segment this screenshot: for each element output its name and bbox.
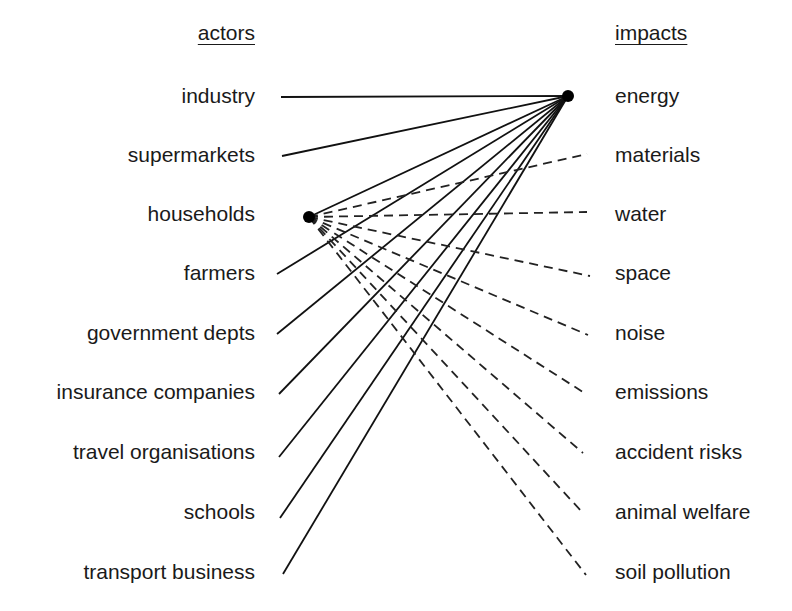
- connection-lines: [0, 0, 792, 611]
- dashed-link-soil-pollution: [309, 217, 586, 575]
- solid-link-travel-organisations: [279, 96, 568, 457]
- solid-link-insurance-companies: [279, 96, 568, 394]
- dashed-link-accident-risks: [309, 217, 583, 453]
- solid-link-schools: [280, 96, 568, 518]
- dashed-link-water: [309, 212, 587, 217]
- solid-link-industry: [281, 96, 568, 97]
- solid-link-households: [309, 96, 568, 217]
- dashed-link-space: [309, 217, 590, 276]
- solid-link-supermarkets: [282, 96, 568, 156]
- households-hub-node: [303, 211, 315, 223]
- dashed-link-materials: [309, 154, 587, 217]
- energy-hub-node: [562, 90, 574, 102]
- dashed-link-noise: [309, 217, 588, 335]
- solid-link-transport-business: [283, 96, 568, 574]
